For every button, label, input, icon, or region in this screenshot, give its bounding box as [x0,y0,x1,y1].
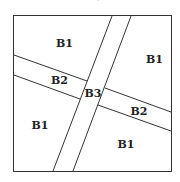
partial-caption: ' [97,0,99,6]
label-b3-center: B3 [85,87,102,100]
label-b2-right: B2 [131,105,148,118]
label-b1-bottom-left: B1 [32,119,49,132]
horizontal-band-bottom-edge-left [14,75,80,99]
label-b2-left: B2 [51,74,68,87]
label-b1-top-right: B1 [146,53,163,66]
label-b1-top-left: B1 [56,37,73,50]
region-diagram: ' B1 B1 B2 B3 B2 B1 B1 [0,0,180,182]
label-b1-bottom-right: B1 [118,138,135,151]
